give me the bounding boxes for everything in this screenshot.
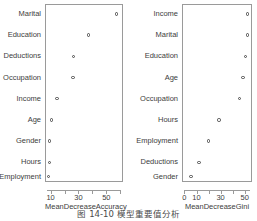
x-axis-tick [65, 190, 66, 194]
plot-area-gini [182, 4, 252, 182]
category-label: Employment [0, 173, 41, 181]
x-axis-tick [120, 190, 121, 194]
category-label: Age [165, 74, 178, 82]
data-point [244, 55, 247, 58]
category-label: Employment [136, 137, 178, 145]
figure-caption: 图 14-10 模型重要值分析 [0, 210, 257, 219]
category-label: Deductions [140, 159, 178, 167]
variable-importance-figure: Marital Education Deductions Occupation … [0, 0, 257, 221]
data-point [48, 139, 51, 142]
data-point [87, 33, 90, 36]
data-point [189, 175, 192, 178]
data-point [246, 12, 249, 15]
category-label: Hours [21, 159, 41, 167]
category-label: Education [145, 53, 178, 61]
x-axis-line-accuracy [47, 190, 121, 191]
data-point [241, 76, 244, 79]
plot-area-accuracy [45, 4, 123, 182]
x-tick-label: 0 [182, 194, 186, 202]
x-tick-label: 50 [241, 194, 249, 202]
category-label: Occupation [140, 95, 178, 103]
category-label: Deductions [3, 53, 41, 61]
data-point [48, 161, 51, 164]
data-point [55, 97, 58, 100]
category-label: Hours [158, 116, 178, 124]
x-axis-tick [233, 190, 234, 194]
x-tick-label: 10 [192, 194, 200, 202]
x-tick-label: 10 [46, 194, 54, 202]
category-label: Marital [18, 10, 41, 18]
category-label: Gender [16, 137, 41, 145]
category-labels-gini: Income Marital Education Age Occupation … [133, 4, 180, 182]
x-tick-label: 30 [216, 194, 224, 202]
category-label: Age [28, 116, 41, 124]
category-label: Marital [155, 31, 178, 39]
data-point [246, 33, 249, 36]
category-label: Occupation [3, 74, 41, 82]
category-label: Income [16, 95, 41, 103]
data-point [115, 12, 118, 15]
data-point [217, 118, 220, 121]
panel-mean-decrease-accuracy: Marital Education Deductions Occupation … [0, 0, 133, 205]
data-point [50, 118, 53, 121]
x-axis-tick [209, 190, 210, 194]
x-tick-label: 30 [74, 194, 82, 202]
data-point [197, 161, 200, 164]
x-axis-tick [92, 190, 93, 194]
category-label: Gender [153, 173, 178, 181]
x-axis-line-gini [184, 190, 250, 191]
x-tick-label: 50 [102, 194, 110, 202]
data-point [71, 76, 74, 79]
category-labels-accuracy: Marital Education Deductions Occupation … [0, 4, 43, 182]
panel-mean-decrease-gini: Income Marital Education Age Occupation … [133, 0, 257, 205]
category-label: Education [8, 31, 41, 39]
category-label: Income [153, 10, 178, 18]
